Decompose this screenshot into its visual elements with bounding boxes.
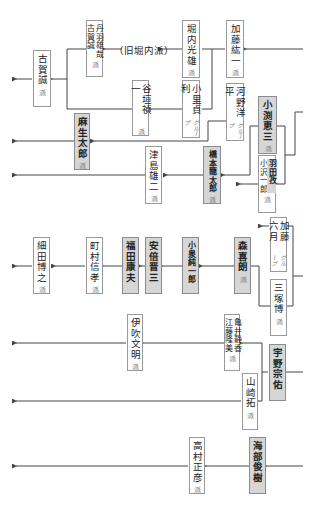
node-obuchi: 小渕恵三 派 <box>258 96 277 154</box>
node-kato-mutsuki-name: 加藤六月 <box>268 221 290 252</box>
node-yamasaki-suffix: 派 <box>245 412 255 419</box>
node-uno: 宇野宗佑 <box>269 344 286 401</box>
node-kamei-name: 亀井静香 <box>232 318 241 352</box>
node-mitsuzuka-name: 三塚博 <box>273 283 284 315</box>
node-komiyama-suffix: グループ <box>182 120 200 137</box>
node-aso: 麻生太郎 派 <box>74 113 90 170</box>
node-ibuki: 伊吹文明 派 <box>127 314 143 371</box>
node-koga: 古賀誠 派 <box>33 50 51 107</box>
node-kato-koichi-name: 加藤紘一 <box>230 24 241 66</box>
node-kato-koichi: 加藤紘一 派 <box>226 20 244 78</box>
node-mitsuzuka: 三塚博 派 <box>270 279 287 336</box>
node-machimura-suffix: 派 <box>90 286 100 293</box>
node-kono-suffix: グループ <box>226 123 244 140</box>
node-niwa-name: 丹羽雄哉 <box>95 24 104 58</box>
node-aso-suffix: 派 <box>77 162 87 169</box>
node-niwa-koga: 丹羽雄哉 古賀誠 派 <box>86 20 103 77</box>
node-fukuda: 福田康夫 <box>122 237 139 294</box>
node-kono-name: 河野洋平 <box>224 87 246 120</box>
old-horiuchi-label: （旧堀内派） <box>114 43 174 57</box>
node-koizumi: 小泉純一郎 <box>182 237 199 294</box>
node-koga-name-b: 古賀誠 <box>86 24 95 58</box>
node-hosoda: 細田博之 派 <box>33 237 50 294</box>
node-kaifu: 海部俊樹 <box>249 437 266 494</box>
node-obuchi-name: 小渕恵三 <box>262 100 273 142</box>
node-takamura: 高村正彦 派 <box>189 437 205 494</box>
node-kamei-eto: 亀井静香 江藤隆美 派 <box>224 314 240 371</box>
node-tanigaki: 谷垣禎一 派 <box>132 80 149 136</box>
node-ibuki-suffix: 派 <box>130 363 140 370</box>
node-mori: 森喜朗 派 <box>234 237 251 294</box>
node-komiyama: 小里貞利 グループ <box>182 80 200 138</box>
node-tsushima-suffix: 派 <box>149 195 159 202</box>
node-kaifu-name: 海部俊樹 <box>252 441 263 483</box>
node-eto-name: 江藤隆美 <box>223 318 232 352</box>
node-kono: 河野洋平 グループ <box>226 83 244 141</box>
node-tanigaki-suffix: 派 <box>136 128 146 135</box>
node-hashimoto-name: 橋本龍太郎 <box>208 150 217 193</box>
node-mitsuzuka-suffix: 派 <box>274 318 284 325</box>
node-hashimoto-suffix: 派 <box>207 196 217 203</box>
node-yamasaki: 山崎拓 派 <box>242 373 258 430</box>
node-tanigaki-name: 谷垣禎一 <box>130 84 152 125</box>
node-hosoda-name: 細田博之 <box>36 241 47 283</box>
node-hata-name: 羽田孜 <box>267 159 276 193</box>
node-yamasaki-name: 山崎拓 <box>245 377 256 409</box>
node-ozawa-name: 小沢一郎 <box>258 159 267 193</box>
node-komiyama-name: 小里貞利 <box>180 84 202 117</box>
node-hashimoto: 橋本龍太郎 派 <box>203 146 221 204</box>
node-kato-koichi-suffix: 派 <box>230 69 240 76</box>
node-abe-name: 安倍晋三 <box>148 241 159 283</box>
node-abe: 安倍晋三 <box>145 237 162 294</box>
node-uno-name: 宇野宗佑 <box>272 348 283 390</box>
node-kato-mutsuki: 加藤六月 グループ <box>270 217 287 272</box>
node-obuchi-suffix: 派 <box>263 145 273 152</box>
node-mori-name: 森喜朗 <box>237 241 248 273</box>
node-fukuda-name: 福田康夫 <box>125 241 136 283</box>
node-tsushima: 津島雄二 派 <box>145 146 162 204</box>
node-takamura-suffix: 派 <box>192 486 202 493</box>
node-machimura: 町村信孝 派 <box>86 237 103 294</box>
node-horiuchi-suffix: 派 <box>186 69 196 76</box>
node-hosoda-suffix: 派 <box>37 286 47 293</box>
node-tsushima-name: 津島雄二 <box>148 150 159 192</box>
faction-lineage-diagram: 古賀誠 派 丹羽雄哉 古賀誠 派 （旧堀内派） 堀内光雄 派 加藤紘一 派 谷垣… <box>0 0 319 511</box>
node-hata-ozawa: 羽田孜 小沢一郎 派 <box>258 155 276 213</box>
node-horiuchi-name: 堀内光雄 <box>186 24 197 66</box>
node-koga-name: 古賀誠 <box>37 54 48 86</box>
node-horiuchi: 堀内光雄 派 <box>182 20 200 78</box>
node-kato-mutsuki-suffix: グループ <box>270 255 288 271</box>
node-niwa-koga-suffix: 派 <box>90 61 100 68</box>
node-aso-name: 麻生太郎 <box>77 117 88 159</box>
node-mori-suffix: 派 <box>238 276 248 283</box>
node-machimura-name: 町村信孝 <box>89 241 100 283</box>
node-takamura-name: 高村正彦 <box>192 441 203 483</box>
node-hata-ozawa-suffix: 派 <box>262 196 272 203</box>
node-koga-suffix: 派 <box>37 89 47 96</box>
node-koizumi-name: 小泉純一郎 <box>186 241 195 284</box>
node-ibuki-name: 伊吹文明 <box>130 318 141 360</box>
node-kamei-eto-suffix: 派 <box>227 355 237 362</box>
